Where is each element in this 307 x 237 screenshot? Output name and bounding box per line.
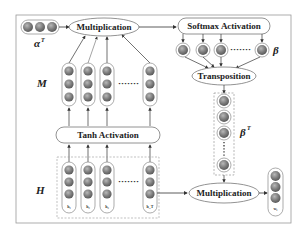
h-ellipsis: ······· <box>118 176 139 186</box>
softmax-label: Softmax Activation <box>187 21 261 31</box>
multiplication-bottom-label: Multiplication <box>196 188 251 198</box>
ht-label: h_T <box>147 204 154 209</box>
beta-vector <box>176 43 269 57</box>
h-matrix-label: H <box>35 184 45 196</box>
alpha-t-vector <box>21 20 59 34</box>
beta-t-vector <box>217 94 231 172</box>
alpha-t-label: α <box>34 37 41 49</box>
transposition-label: Transposition <box>198 71 251 81</box>
multiplication-top-label: Multiplication <box>76 22 131 32</box>
beta-t-sup: T <box>247 125 251 131</box>
beta-ellipsis: ······· <box>230 44 251 54</box>
alpha-t-sup: T <box>41 37 45 43</box>
beta-label: β <box>272 44 279 56</box>
m-ellipsis: ······· <box>118 78 139 88</box>
tanh-label: Tanh Activation <box>77 130 138 140</box>
attention-diagram: α T Multiplication Softmax Activation ··… <box>0 0 307 237</box>
m-matrix <box>62 63 157 106</box>
beta-t-label: β <box>239 126 246 138</box>
m-matrix-label: M <box>36 77 48 89</box>
h-matrix <box>62 162 157 213</box>
